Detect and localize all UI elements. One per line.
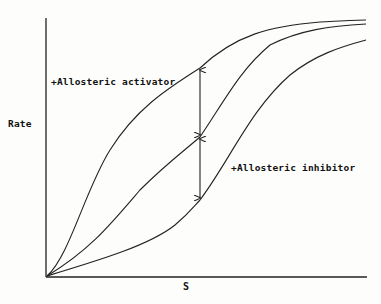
activator-curve: [47, 20, 366, 276]
plot-area: [0, 0, 381, 304]
chart: Rate S +Allosteric activator +Allosteric…: [0, 0, 381, 304]
inhibitor-label: +Allosteric inhibitor: [231, 162, 355, 173]
activator-label: +Allosteric activator: [51, 76, 175, 87]
x-axis-label: S: [183, 281, 189, 292]
y-axis-label: Rate: [8, 118, 32, 129]
